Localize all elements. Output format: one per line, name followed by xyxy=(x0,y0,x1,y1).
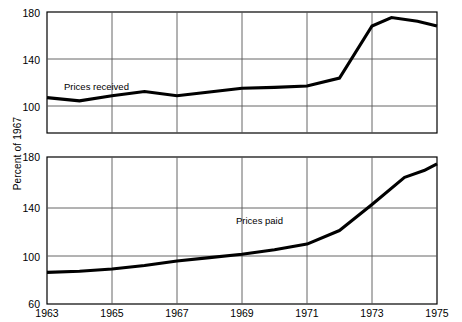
xtick-1969: 1969 xyxy=(222,307,262,319)
bottom-ytick-100: 100 xyxy=(8,251,40,263)
xtick-1975: 1975 xyxy=(417,307,457,319)
top-panel xyxy=(47,12,437,133)
top-ytick-100: 100 xyxy=(8,101,40,113)
bottom-ytick-180: 180 xyxy=(8,151,40,163)
bottom-panel xyxy=(47,157,437,304)
xtick-1965: 1965 xyxy=(92,307,132,319)
xtick-1963: 1963 xyxy=(27,307,67,319)
xtick-1967: 1967 xyxy=(157,307,197,319)
series-label-prices-received: Prices received xyxy=(64,81,129,92)
series-label-prices-paid: Prices paid xyxy=(236,215,283,226)
top-ytick-180: 180 xyxy=(8,7,40,19)
bottom-ytick-140: 140 xyxy=(8,202,40,214)
xtick-1973: 1973 xyxy=(352,307,392,319)
price-index-figure: Percent of 1967 180 140 100 180 140 100 … xyxy=(0,0,462,322)
top-ytick-140: 140 xyxy=(8,54,40,66)
xtick-1971: 1971 xyxy=(287,307,327,319)
chart-canvas xyxy=(0,0,462,322)
